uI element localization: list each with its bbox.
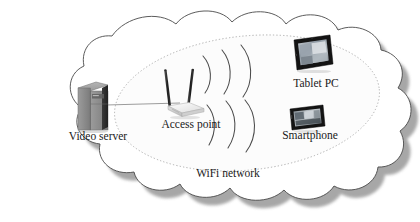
label-wifi-network: WiFi network xyxy=(196,167,260,179)
server-tower-icon xyxy=(78,82,108,133)
label-access-point: Access point xyxy=(161,118,221,131)
label-smartphone: Smartphone xyxy=(282,129,338,142)
network-diagram: Video server Access point Tablet PC Smar… xyxy=(0,0,420,222)
label-video-server: Video server xyxy=(69,130,128,142)
diagram-canvas: Video server Access point Tablet PC Smar… xyxy=(0,0,420,222)
label-tablet-pc: Tablet PC xyxy=(293,77,339,89)
